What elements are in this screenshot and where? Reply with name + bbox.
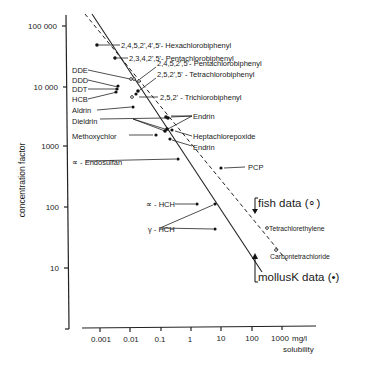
- data-point-filled: [114, 90, 117, 93]
- data-point-filled: [166, 116, 170, 120]
- x-axis-label: solubility: [283, 345, 314, 354]
- label-dieldrin: Dieldrin: [72, 117, 97, 126]
- data-point-open: [266, 227, 269, 230]
- data-point-filled: [134, 92, 137, 95]
- y-tick-label: 1000: [41, 142, 59, 151]
- label-endrin-2: Endrin: [193, 143, 215, 152]
- label-endrin-1: Endrin: [193, 112, 215, 121]
- x-tick-label: 1: [188, 335, 193, 344]
- data-point-open: [133, 78, 136, 81]
- x-tick-label: 1000: [271, 334, 289, 343]
- data-point-filled: [213, 202, 216, 205]
- data-point-filled: [136, 89, 140, 93]
- x-tick-label: 0.001: [91, 335, 112, 344]
- data-point-open: [138, 80, 141, 83]
- arrow-up-icon: [252, 253, 258, 259]
- x-tick-label: 100: [245, 334, 259, 343]
- data-point-open: [131, 96, 134, 99]
- data-point-filled: [116, 84, 119, 87]
- data-point-filled: [176, 157, 179, 160]
- y-tick-labels: 100 000 10 000 1000 100 10: [28, 22, 59, 273]
- point-labels: 2,4,5,2',4',5'- Hexachlorobiphenyl 2,3,4…: [72, 41, 330, 260]
- data-point-filled: [131, 105, 134, 108]
- label-heptachlorepoxide: Heptachlorepoxide: [193, 132, 256, 141]
- data-point-filled: [170, 128, 173, 131]
- mollusk-regression-line: [92, 14, 262, 272]
- mollusk-data-label: mollusK data (•): [258, 271, 340, 283]
- label-dde: DDE: [72, 66, 88, 75]
- label-carbontetrachloride: Carbontetrachloride: [270, 253, 330, 260]
- x-unit-label: mg/l: [292, 334, 307, 343]
- y-tick-label: 10 000: [34, 83, 59, 92]
- data-point-open: [130, 78, 133, 81]
- data-point-filled: [165, 127, 169, 131]
- label-pcp: PCP: [248, 163, 263, 172]
- arrow-down-icon: [252, 209, 258, 214]
- x-tick-label: 0.1: [154, 335, 166, 344]
- label-trichlorobiphenyl: 2,5,2' - Trichlorobiphenyl: [160, 93, 242, 102]
- label-alpha-hch: ∝ - HCH: [146, 200, 175, 209]
- data-point-filled: [115, 87, 118, 90]
- data-point-filled: [113, 56, 117, 60]
- x-axis: [82, 326, 316, 332]
- label-ddt: DDT: [72, 85, 88, 94]
- label-methoxychlor: Methoxychlor: [72, 132, 117, 141]
- fish-data-label: fish data (∘): [258, 197, 320, 209]
- x-tick-labels: 0.001 0.01 0.1 1 10 100 1000: [91, 334, 289, 344]
- data-point-filled: [213, 227, 216, 230]
- label-ddd: DDD: [72, 76, 89, 85]
- label-endosulfan: ∝ - Endosulfan: [72, 158, 122, 167]
- y-axis: [62, 15, 69, 329]
- label-pentachlorobiphenyl-2: 2,4,5,2',5'- Pentachlorobiphenyl: [157, 59, 262, 68]
- data-point-filled: [195, 202, 198, 205]
- chart: 100 000 10 000 1000 100 10 concentration…: [0, 0, 369, 370]
- y-tick-label: 100: [46, 203, 60, 212]
- data-point-filled: [168, 137, 171, 140]
- y-tick-label: 100 000: [28, 22, 57, 31]
- label-hcb: HCB: [72, 95, 88, 104]
- y-tick-label: 10: [50, 264, 59, 273]
- label-gamma-hch: γ - HCH: [148, 225, 175, 234]
- y-axis-label: concentration factor: [17, 143, 27, 218]
- label-hexachlorobiphenyl: 2,4,5,2',4',5'- Hexachlorobiphenyl: [121, 41, 232, 50]
- label-tetrachlorobiphenyl: 2,5,2',5' - Tetrachlorobiphenyl: [157, 70, 255, 79]
- data-point-filled: [154, 133, 157, 136]
- label-tetrachlorethylene: Tetrachlorethylene: [269, 225, 325, 233]
- data-point-open: [275, 249, 278, 252]
- fish-legend: fish data (∘): [252, 197, 320, 214]
- x-tick-label: 10: [217, 334, 226, 343]
- data-point-filled: [95, 43, 99, 47]
- data-point-filled: [219, 166, 222, 169]
- x-tick-label: 0.01: [123, 335, 139, 344]
- label-aldrin: Aldrin: [72, 106, 91, 115]
